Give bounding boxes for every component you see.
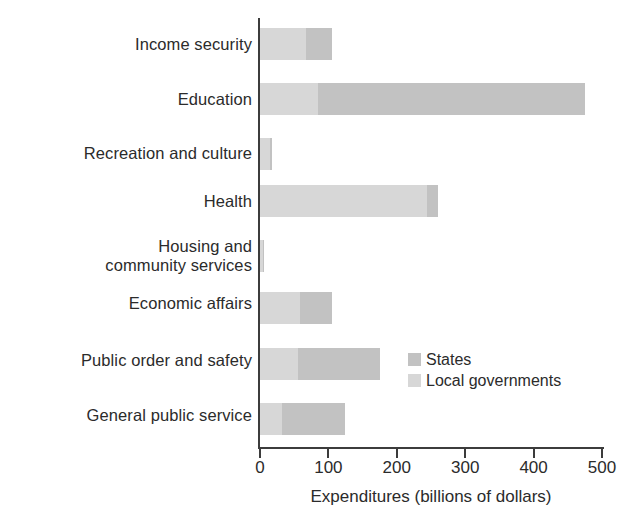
legend-label-local-governments: Local governments: [426, 372, 561, 390]
category-label-text-line2: community services: [0, 256, 252, 275]
legend-item-states: States: [408, 350, 561, 369]
bar-segment-states: [282, 403, 345, 435]
x-axis-tick: [533, 449, 535, 458]
x-axis-tick: [327, 449, 329, 458]
bar-segment-states: [270, 138, 272, 170]
chart-figure: Income security Education Recreation and…: [0, 0, 638, 530]
bar-public-order-and-safety: [260, 348, 380, 380]
x-axis-tick-label: 100: [314, 458, 342, 478]
category-label-text: Income security: [135, 35, 252, 53]
bar-economic-affairs: [260, 292, 332, 324]
category-label-general-public-service: General public service: [0, 406, 252, 425]
category-label-text: Health: [204, 192, 252, 210]
bar-segment-local-governments: [260, 348, 298, 380]
bar-segment-states: [318, 83, 585, 115]
bar-education: [260, 83, 585, 115]
bar-segment-local-governments: [260, 83, 318, 115]
legend-swatch-local-governments: [408, 374, 421, 387]
category-label-text-line1: Housing and: [0, 237, 252, 256]
category-label-education: Education: [0, 90, 252, 109]
bar-segment-states: [427, 185, 438, 217]
category-label-text: Public order and safety: [81, 351, 252, 369]
x-axis-tick: [259, 449, 261, 458]
category-label-text: General public service: [87, 406, 252, 424]
bar-general-public-service: [260, 403, 345, 435]
category-label-public-order-and-safety: Public order and safety: [0, 351, 252, 370]
x-axis-tick-label: 300: [451, 458, 479, 478]
bar-housing-and-community-services: [260, 240, 263, 272]
category-label-housing-and-community-services: Housing and community services: [0, 237, 252, 275]
bar-recreation-and-culture: [260, 138, 272, 170]
category-label-text: Education: [178, 90, 252, 108]
x-axis-tick: [464, 449, 466, 458]
bar-segment-local-governments: [260, 185, 427, 217]
bar-income-security: [260, 28, 332, 60]
legend-item-local-governments: Local governments: [408, 371, 561, 390]
bar-segment-states: [298, 348, 380, 380]
x-axis-tick-label: 500: [588, 458, 616, 478]
category-label-text: Economic affairs: [129, 294, 252, 312]
x-axis-tick-label: 0: [255, 458, 264, 478]
bar-health: [260, 185, 438, 217]
category-label-text: Recreation and culture: [84, 144, 252, 162]
legend-swatch-states: [408, 353, 421, 366]
category-label-income-security: Income security: [0, 35, 252, 54]
legend-label-states: States: [426, 351, 471, 369]
x-axis-tick: [396, 449, 398, 458]
category-axis-labels: Income security Education Recreation and…: [0, 0, 252, 530]
legend: States Local governments: [408, 350, 561, 392]
bar-segment-states: [306, 28, 332, 60]
category-label-recreation-and-culture: Recreation and culture: [0, 144, 252, 163]
x-axis-tick-label: 400: [519, 458, 547, 478]
x-axis-title: Expenditures (billions of dollars): [258, 487, 604, 507]
bar-segment-states: [300, 292, 332, 324]
category-label-health: Health: [0, 192, 252, 211]
bar-segment-local-governments: [260, 138, 270, 170]
bar-segment-local-governments: [260, 292, 300, 324]
category-label-economic-affairs: Economic affairs: [0, 294, 252, 313]
x-axis-tick-label: 200: [383, 458, 411, 478]
bar-segment-local-governments: [260, 28, 306, 60]
bar-segment-local-governments: [260, 403, 282, 435]
bar-segment-states: [263, 240, 264, 272]
x-axis-tick: [601, 449, 603, 458]
